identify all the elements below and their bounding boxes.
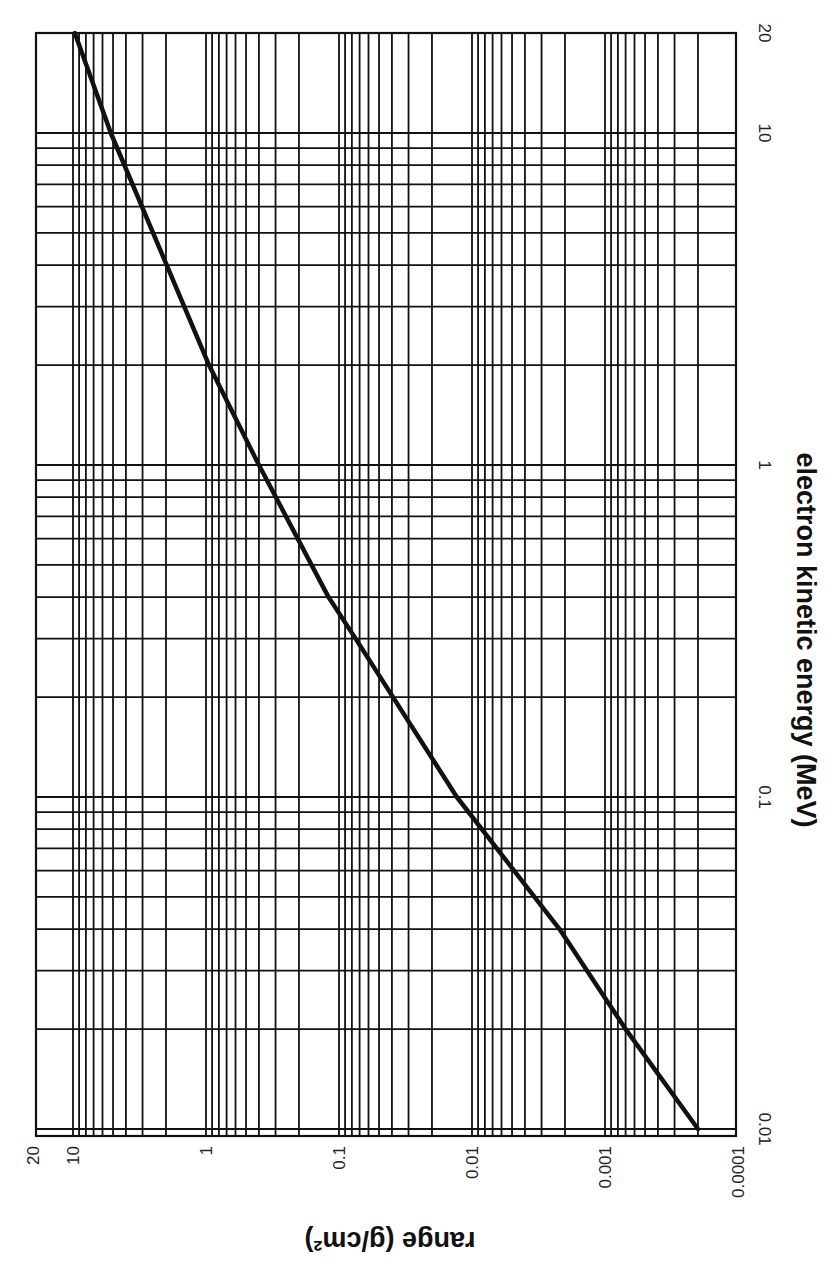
range-tick-label: 0.1: [330, 1146, 349, 1170]
range-axis-title: range (g/cm²): [304, 1226, 475, 1256]
range-tick-labels: 0.00010.0010.010.111020: [24, 1146, 748, 1198]
energy-axis-title: electron kinetic energy (MeV): [791, 452, 821, 827]
range-tick-label: 0.001: [596, 1146, 615, 1189]
range-tick-label: 10: [64, 1146, 83, 1165]
energy-tick-labels: 0.010.111020: [755, 24, 774, 1146]
energy-tick-label: 1: [755, 460, 774, 469]
range-energy-chart: 0.010.111020 0.00010.0010.010.111020 ele…: [0, 0, 836, 1280]
energy-tick-label: 10: [755, 124, 774, 143]
range-tick-label: 20: [24, 1146, 43, 1165]
energy-tick-label: 0.01: [755, 1112, 774, 1145]
range-tick-label: 1: [197, 1146, 216, 1155]
range-tick-label: 0.0001: [729, 1146, 748, 1198]
range-tick-label: 0.01: [463, 1146, 482, 1179]
energy-tick-label: 20: [755, 24, 774, 43]
energy-tick-label: 0.1: [755, 785, 774, 809]
grid-lines: [36, 33, 736, 1136]
